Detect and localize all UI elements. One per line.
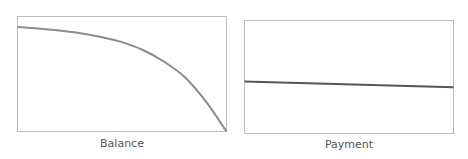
- balance-chart-panel: Balance: [0, 0, 234, 159]
- payment-chart-frame: [245, 21, 454, 134]
- balance-axis-label: Balance: [17, 137, 227, 150]
- balance-chart-frame: [18, 17, 227, 132]
- payment-chart-panel: Payment: [234, 0, 468, 159]
- balance-chart: [0, 0, 234, 159]
- payment-chart: [234, 0, 468, 159]
- payment-axis-label: Payment: [244, 138, 454, 151]
